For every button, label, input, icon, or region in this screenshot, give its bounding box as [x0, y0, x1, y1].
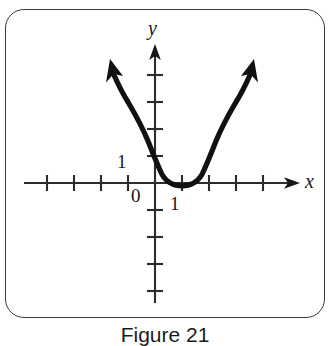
parabola-path: [114, 75, 250, 186]
y-axis-label: y: [148, 18, 157, 38]
y-axis-tick-label-one: 1: [117, 152, 127, 171]
figure-caption: Figure 21: [0, 324, 330, 345]
x-axis-tick-label-one: 1: [170, 194, 180, 213]
x-axis-label: x: [305, 171, 314, 191]
parabola-curve: [106, 59, 258, 186]
origin-label: 0: [131, 186, 141, 205]
